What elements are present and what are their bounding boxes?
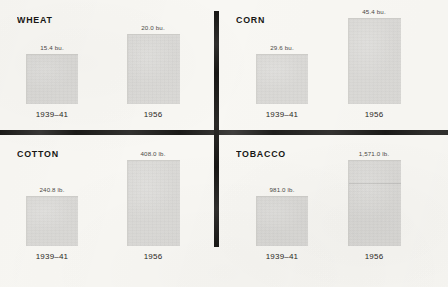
bar-cotton-1939-41 (26, 196, 78, 246)
panel-title-tobacco: TOBACCO (236, 148, 286, 159)
bar-wheat-1939-41 (26, 54, 78, 104)
value-label-wheat-1939-41: 15.4 bu. (18, 44, 86, 51)
value-label-cotton-1939-41: 240.8 lb. (18, 186, 86, 193)
year-label-wheat-1939-41: 1939–41 (18, 110, 86, 119)
bar-cotton-1956 (127, 160, 180, 246)
year-label-corn-1939-41: 1939–41 (248, 110, 316, 119)
value-label-corn-1956: 45.4 bu. (340, 8, 408, 15)
panel-title-wheat: WHEAT (17, 14, 53, 25)
crop-yield-chart-figure: WHEAT 15.4 bu. 1939–41 20.0 bu. 1956 COR… (0, 0, 448, 287)
bar-tobacco-1939-41 (256, 196, 308, 246)
bar-corn-1939-41 (256, 54, 308, 104)
year-label-tobacco-1939-41: 1939–41 (248, 252, 316, 261)
year-label-cotton-1956: 1956 (119, 252, 187, 261)
value-label-cotton-1956: 408.0 lb. (119, 150, 187, 157)
panel-title-corn: CORN (236, 14, 265, 25)
bar-corn-1956 (348, 18, 401, 104)
year-label-corn-1956: 1956 (340, 110, 408, 119)
value-label-tobacco-1956: 1,571.0 lb. (340, 150, 408, 157)
value-label-corn-1939-41: 29.6 bu. (248, 44, 316, 51)
year-label-wheat-1956: 1956 (119, 110, 187, 119)
bar-wheat-1956 (127, 34, 180, 104)
value-label-tobacco-1939-41: 981.0 lb. (248, 186, 316, 193)
value-label-wheat-1956: 20.0 bu. (119, 24, 187, 31)
vertical-divider-rule (214, 11, 219, 247)
horizontal-divider-rule (0, 130, 448, 135)
year-label-tobacco-1956: 1956 (340, 252, 408, 261)
bar-tobacco-1956 (348, 160, 401, 246)
year-label-cotton-1939-41: 1939–41 (18, 252, 86, 261)
panel-title-cotton: COTTON (17, 148, 59, 159)
